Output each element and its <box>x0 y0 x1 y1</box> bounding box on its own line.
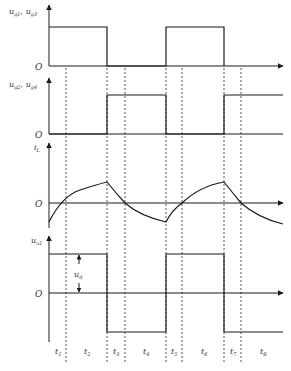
waveform-diagram: ug1, ug3 O ug2, ug4 O iL O ud uo1 <box>0 0 291 371</box>
gate-waveform <box>49 95 283 134</box>
origin-label: O <box>35 130 43 140</box>
interval-labels: t1 t2 t3 t4 t5 t6 t7 t8 <box>55 347 266 357</box>
y-axis-label: ug2, ug4 <box>9 80 37 91</box>
ud-label: ud <box>74 270 82 280</box>
y-axis-label: uo1 <box>31 236 42 246</box>
interval-label-t6: t6 <box>201 347 208 357</box>
y-axis-label: ug1, ug3 <box>9 7 37 18</box>
origin-label: O <box>35 289 43 299</box>
interval-label-t2: t2 <box>84 347 90 357</box>
interval-label-t3: t3 <box>113 347 119 357</box>
interval-label-t1: t1 <box>55 347 61 357</box>
time-divider-lines <box>66 68 241 362</box>
panel-output-voltage: ud uo1 O <box>31 236 283 342</box>
gate-waveform <box>49 27 224 66</box>
panel-gate-1-3: ug1, ug3 O <box>9 5 283 72</box>
panel-gate-2-4: ug2, ug4 O <box>9 78 283 140</box>
interval-label-t4: t4 <box>143 347 149 357</box>
origin-label: O <box>35 199 43 209</box>
interval-label-t5: t5 <box>171 347 177 357</box>
interval-label-t7: t7 <box>230 347 237 357</box>
origin-label: O <box>35 62 43 72</box>
y-axis-label: iL <box>34 143 41 153</box>
panel-inductor-current: iL O <box>34 143 283 228</box>
interval-label-t8: t8 <box>260 347 266 357</box>
